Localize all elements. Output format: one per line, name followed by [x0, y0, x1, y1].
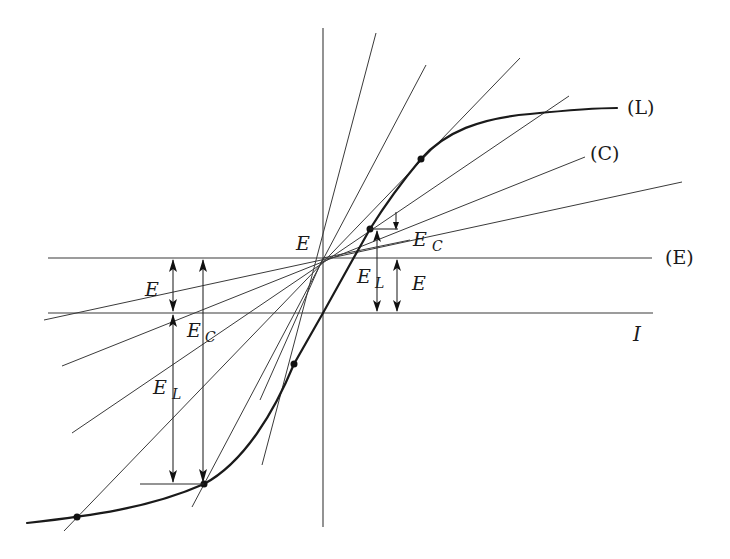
label-left-EC: E — [186, 319, 201, 341]
label-axis-I: I — [632, 322, 642, 346]
label-line-C: (C) — [590, 142, 619, 164]
characteristic-curve-L — [27, 108, 617, 523]
label-right-EL-sub: L — [374, 275, 384, 291]
fan-line-3 — [64, 58, 520, 531]
fan-line-6 — [44, 182, 682, 320]
label-right-EC-sub: C — [432, 238, 443, 254]
label-right-EC: E — [412, 228, 427, 250]
label-left-EL-sub: L — [171, 386, 181, 402]
label-curve-L: (L) — [627, 96, 654, 118]
curve-point-5 — [418, 156, 425, 163]
label-left-EL: E — [152, 376, 167, 398]
label-left-EC-sub: C — [205, 329, 216, 345]
curve-point-3 — [291, 361, 298, 368]
label-left-E: E — [144, 278, 159, 300]
right-dimension-arrows — [370, 212, 401, 312]
label-pivot-E: E — [295, 232, 310, 254]
label-right-EL: E — [356, 265, 371, 287]
fan-line-2 — [192, 65, 426, 507]
label-right-E: E — [411, 272, 426, 294]
curve-point-1 — [74, 514, 81, 521]
label-line-E: (E) — [665, 246, 694, 268]
load-line-diagram: (L) (C) (E) I E E C E L E E E C E L — [0, 0, 730, 559]
